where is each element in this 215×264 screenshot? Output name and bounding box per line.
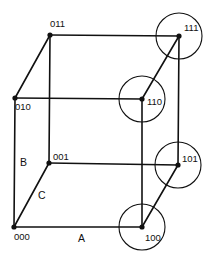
axis-label-C: C	[38, 189, 46, 201]
vertex-dot-000	[11, 224, 16, 229]
highlight-circles	[119, 13, 202, 250]
vertex-dot-001	[46, 160, 51, 165]
vertex-label-001: 001	[53, 151, 69, 162]
vertex-dot-101	[175, 162, 180, 167]
axis-label-A: A	[78, 232, 85, 244]
vertex-dot-011	[47, 32, 52, 37]
edge-110-111	[142, 36, 179, 99]
vertex-dot-100	[139, 224, 144, 229]
edge-101-111	[178, 36, 179, 165]
vertex-dot-110	[139, 96, 144, 101]
edge-000-010	[14, 98, 15, 227]
edge-010-011	[15, 35, 50, 98]
vertex-dot-111	[176, 33, 181, 38]
edge-010-110	[15, 98, 142, 99]
vertex-label-011: 011	[50, 18, 65, 29]
cube-figure: 000001010011100101110111 ABC	[0, 0, 215, 264]
vertex-label-101: 101	[182, 153, 198, 164]
vertex-label-100: 100	[145, 232, 161, 243]
vertex-label-110: 110	[147, 96, 162, 107]
vertex-dot-010	[12, 95, 17, 100]
vertex-label-111: 111	[184, 22, 198, 33]
edge-001-101	[49, 163, 178, 165]
vertex-labels: 000001010011100101110111	[14, 18, 198, 243]
vertex-label-000: 000	[14, 231, 30, 242]
edge-011-111	[50, 35, 179, 36]
axis-label-B: B	[20, 156, 27, 168]
vertex-dots	[11, 32, 181, 229]
edge-100-101	[142, 165, 178, 227]
vertex-label-010: 010	[15, 101, 31, 112]
edge-001-011	[49, 35, 50, 163]
boolean-cube-diagram: 000001010011100101110111 ABC	[0, 0, 215, 264]
